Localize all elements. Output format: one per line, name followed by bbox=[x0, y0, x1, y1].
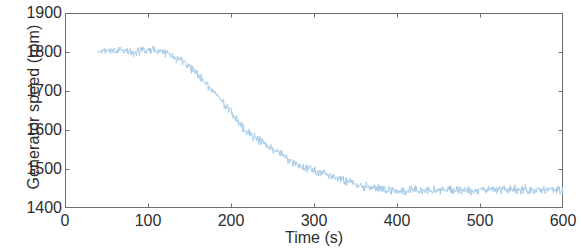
axis-ticks bbox=[66, 14, 564, 209]
plot-area bbox=[65, 13, 563, 208]
x-axis-label: Time (s) bbox=[65, 227, 563, 249]
y-tick-label: 1500 bbox=[4, 159, 62, 179]
y-axis-tick-labels: 140015001600170018001900 bbox=[0, 13, 62, 208]
plot-canvas bbox=[65, 13, 563, 208]
axis-box bbox=[66, 14, 563, 208]
data-series-line bbox=[98, 46, 563, 195]
y-tick-label: 1600 bbox=[4, 120, 62, 140]
y-tick-label: 1800 bbox=[4, 42, 62, 62]
data-series-group bbox=[98, 46, 563, 195]
y-tick-label: 1700 bbox=[4, 81, 62, 101]
y-tick-label: 1900 bbox=[4, 3, 62, 23]
